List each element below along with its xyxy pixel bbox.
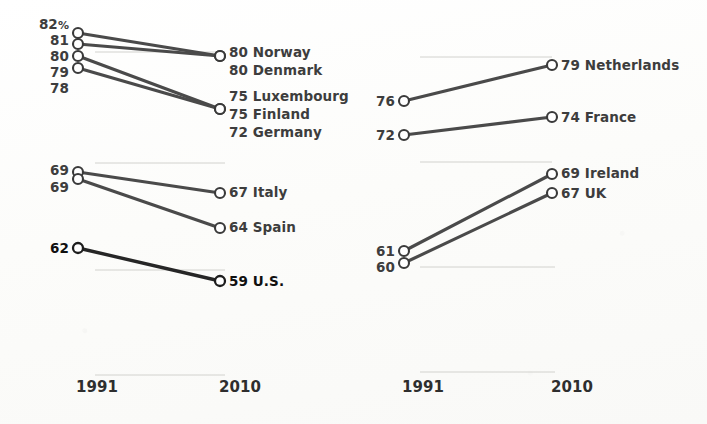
value-label-bottom-left: 62	[50, 240, 69, 256]
slope-end-dot-italy	[215, 188, 225, 198]
country-label-germany: 72 Germany	[229, 124, 322, 140]
value-label-top-left: 78	[50, 80, 69, 96]
slope-start-dot-france	[399, 130, 409, 140]
x-axis-year-2010: 2010	[551, 378, 593, 396]
slope-line-us	[78, 248, 220, 281]
country-label-ireland: 69 Ireland	[561, 165, 639, 181]
right-country-labels-group: 80 Norway80 Denmark75 Luxembourg75 Finla…	[229, 44, 679, 289]
country-label-netherlands: 79 Netherlands	[561, 57, 679, 73]
slope-end-dot-netherlands	[547, 60, 557, 70]
slope-end-dot-spain	[215, 223, 225, 233]
slope-line-italy	[78, 172, 220, 193]
slope-start-dot-netherlands	[399, 96, 409, 106]
x-axis-year-2010: 2010	[219, 378, 261, 396]
x-axis-year-labels-group: 1991201019912010	[76, 378, 593, 396]
slope-line-france	[404, 117, 552, 135]
country-label-finland: 75 Finland	[229, 106, 310, 122]
slope-start-dot-finland	[73, 63, 83, 73]
slope-start-dot-norway	[73, 28, 83, 38]
slope-end-dot-denmark	[215, 51, 225, 61]
value-label-bottom-left: 69	[50, 162, 69, 178]
slope-start-dot-spain	[73, 174, 83, 184]
country-label-norway: 80 Norway	[229, 44, 311, 60]
slope-line-finland	[78, 68, 220, 109]
country-label-france: 74 France	[561, 109, 636, 125]
country-label-spain: 64 Spain	[229, 219, 296, 235]
value-label-bottom-right: 61	[376, 243, 395, 259]
slope-end-dot-uk	[547, 188, 557, 198]
country-label-denmark: 80 Denmark	[229, 62, 323, 78]
slope-line-ireland	[404, 174, 552, 251]
country-label-u.s.: 59 U.S.	[229, 273, 284, 289]
slope-start-dot-ireland	[399, 246, 409, 256]
value-label-top-right: 72	[376, 127, 395, 143]
value-label-top-right: 76	[376, 93, 395, 109]
slope-start-dot-denmark	[73, 39, 83, 49]
slope-end-dot-france	[547, 112, 557, 122]
slope-start-dot-luxembourg	[73, 51, 83, 61]
value-label-top-left: 82%	[39, 16, 69, 32]
slope-line-luxembourg	[78, 56, 220, 109]
slope-start-dot-uk	[399, 258, 409, 268]
slope-end-dot-finland	[215, 104, 225, 114]
value-label-bottom-right: 60	[376, 259, 395, 275]
slope-line-uk	[404, 193, 552, 263]
value-label-top-left: 81	[50, 32, 69, 48]
slope-chart-canvas: 82%8180797869696276726160 80 Norway80 De…	[0, 0, 707, 424]
value-label-top-left: 79	[50, 64, 69, 80]
slope-end-dot-us	[215, 276, 225, 286]
x-axis-year-1991: 1991	[402, 378, 444, 396]
country-label-uk: 67 UK	[561, 185, 607, 201]
country-label-italy: 67 Italy	[229, 184, 287, 200]
x-axis-year-1991: 1991	[76, 378, 118, 396]
value-label-top-left: 80	[50, 48, 69, 64]
country-label-luxembourg: 75 Luxembourg	[229, 88, 349, 104]
slope-line-netherlands	[404, 65, 552, 101]
slope-chart-figure: 82%8180797869696276726160 80 Norway80 De…	[0, 0, 707, 424]
slope-start-dot-us	[73, 243, 83, 253]
slope-end-dot-ireland	[547, 169, 557, 179]
value-label-bottom-left: 69	[50, 179, 69, 195]
slope-line-spain	[78, 179, 220, 228]
